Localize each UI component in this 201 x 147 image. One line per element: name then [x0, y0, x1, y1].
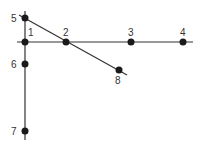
node-label-5: 5	[11, 13, 17, 24]
graph-diagram: 1 2 3 4 5 6 7 8	[0, 0, 201, 147]
node-7	[22, 128, 29, 135]
node-5	[22, 15, 29, 22]
node-label-2: 2	[63, 27, 69, 38]
node-label-8: 8	[115, 75, 121, 86]
node-1	[22, 39, 29, 46]
node-8	[116, 67, 123, 74]
node-label-7: 7	[11, 126, 17, 137]
node-4	[180, 39, 187, 46]
node-label-1: 1	[28, 27, 34, 38]
node-label-3: 3	[128, 27, 134, 38]
node-2	[63, 39, 70, 46]
node-6	[22, 61, 29, 68]
node-label-6: 6	[11, 59, 17, 70]
node-3	[128, 39, 135, 46]
diagonal-line	[19, 15, 127, 75]
node-label-4: 4	[180, 27, 186, 38]
